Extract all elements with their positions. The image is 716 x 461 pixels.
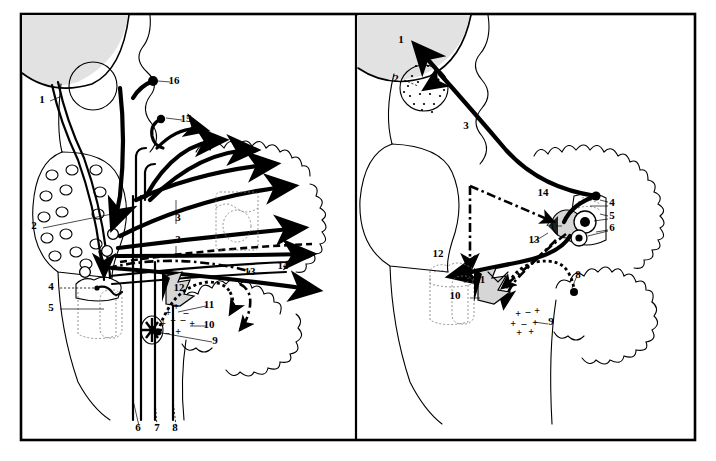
right-cord-outline-right: [392, 144, 459, 272]
right-neck-anterior: [388, 74, 394, 144]
left-label-10: 10: [204, 318, 216, 330]
left-charge-8: +: [175, 326, 181, 337]
right-gut-scallop-group: [534, 145, 664, 364]
left-label-9: 9: [212, 334, 218, 346]
left-label-12: 12: [174, 281, 186, 293]
right-label-8: 8: [575, 268, 581, 280]
right-charge-2: +: [534, 305, 540, 316]
left-label-5: 5: [48, 301, 54, 313]
right-label-2: 2: [393, 72, 399, 84]
right-label-14: 14: [538, 186, 550, 198]
right-label-10: 10: [450, 289, 462, 301]
right-label-11: 11: [475, 273, 485, 285]
left-label-6: 6: [135, 421, 141, 433]
left-label-16: 16: [169, 74, 181, 86]
left-gut-descend: [182, 340, 186, 420]
left-label-2: 2: [31, 219, 37, 231]
left-enteric-soma: [154, 328, 161, 335]
right-label-1: 1: [398, 33, 404, 45]
right-charge-1: –: [525, 306, 532, 317]
right-panel-charge-marks: +–++–+++: [510, 305, 540, 338]
left-ganglion-mid: [102, 246, 113, 257]
left-arc-7: [116, 254, 310, 256]
left-panel-charge-marks: ++–++–+–+: [160, 301, 195, 338]
left-label-7: 7: [154, 421, 160, 433]
right-terminal-bulb: [591, 191, 600, 200]
left-label-4: 4: [48, 280, 54, 292]
right-label-3: 3: [463, 119, 469, 131]
right-ascending-afferent: [440, 74, 596, 196]
left-vagus-trunk-a: [52, 85, 104, 280]
left-label-3: 3: [175, 211, 181, 223]
right-label-5: 5: [609, 209, 615, 221]
left-efferent-to-ganglion: [113, 88, 123, 226]
left-charge-4: +: [170, 315, 176, 326]
right-charge-6: +: [516, 327, 522, 338]
left-label-15: 15: [181, 112, 193, 124]
right-label-12: 12: [433, 247, 445, 259]
right-charge-7: +: [528, 326, 534, 337]
right-head-dome-shade: [358, 15, 470, 80]
right-label-4: 4: [609, 196, 615, 208]
left-kidney-group: [76, 277, 122, 339]
left-label-14: 14: [278, 259, 290, 271]
right-face-profile: [475, 15, 489, 164]
right-enteric-terminal-8: [570, 288, 578, 296]
left-enteric-terminal: [230, 292, 233, 314]
right-label-7: 7: [545, 216, 551, 228]
left-label-8: 8: [172, 421, 178, 433]
diagram-canvas: 123345678910111213141516 ++–++–+–+: [0, 0, 716, 461]
figure-root: 123345678910111213141516 ++–++–+–+: [0, 0, 716, 461]
left-dashdot-13: [240, 284, 250, 330]
right-ganglion-complex: [548, 193, 606, 246]
right-charge-0: +: [515, 308, 521, 319]
left-ganglion-lower: [80, 267, 91, 278]
right-label-9: 9: [548, 315, 554, 327]
left-head-dome-shade: [22, 15, 128, 86]
left-inset-organ: [216, 192, 258, 250]
right-label-13: 13: [529, 233, 541, 245]
left-charge-6: +: [189, 318, 195, 329]
right-label-6: 6: [609, 221, 615, 233]
left-charge-7: –: [164, 327, 171, 338]
left-label-3: 3: [175, 233, 181, 245]
left-body-wall: [58, 272, 110, 420]
left-adrenal-nerve: [96, 287, 122, 295]
left-charge-1: +: [173, 301, 179, 312]
right-body-wall: [390, 266, 442, 424]
left-charge-5: –: [180, 314, 187, 325]
left-label-11: 11: [204, 298, 214, 310]
left-label-1: 1: [39, 93, 45, 105]
right-panel-content: [358, 15, 664, 424]
left-label-13: 13: [245, 265, 257, 277]
left-ganglion-upper: [108, 229, 119, 240]
